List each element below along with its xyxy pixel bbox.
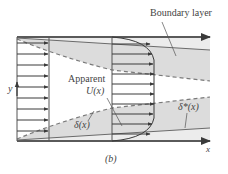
duct-boundary-layer-diagram: Boundary layer Apparent U(x) δ(x) δ*(x) …: [0, 0, 228, 174]
apparent-label: Apparent: [68, 73, 105, 84]
core-velocity-label: U(x): [86, 85, 105, 97]
y-axis-label: y: [7, 83, 13, 94]
panel-label: (b): [105, 153, 117, 165]
delta-star-label: δ*(x): [178, 101, 199, 113]
x-axis-label: x: [205, 144, 210, 154]
delta-label: δ(x): [74, 119, 90, 131]
boundary-layer-shading: [17, 37, 210, 141]
boundary-layer-label: Boundary layer: [150, 7, 213, 18]
inlet-velocity-arrows: [17, 43, 48, 131]
